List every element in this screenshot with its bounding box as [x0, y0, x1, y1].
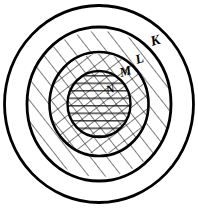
- figure-root: K L M N: [0, 0, 198, 209]
- concentric-circles-diagram: K L M N: [0, 0, 198, 209]
